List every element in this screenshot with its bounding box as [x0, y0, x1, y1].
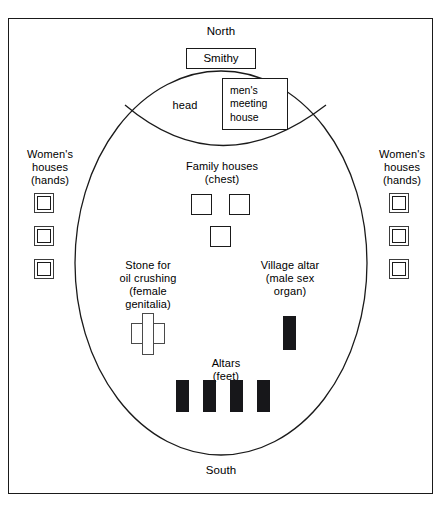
oil-crushing-stone-label: Stone for oil crushing (female genitalia… — [99, 259, 197, 311]
stone-wing-right-icon — [153, 323, 165, 344]
altar-glyph — [230, 380, 243, 412]
village-altar-label: Village altar (male sex organ) — [238, 259, 342, 298]
women-houses-left-label: Women's houses (hands) — [10, 148, 90, 187]
village-plan-diagram: North South Smithy head men's meeting ho… — [0, 0, 442, 508]
plan-frame-border — [8, 18, 433, 494]
altar-glyph — [257, 380, 270, 412]
women-house-glyph — [34, 193, 54, 213]
women-houses-right-label: Women's houses (hands) — [362, 148, 442, 187]
women-house-glyph — [389, 226, 409, 246]
oil-crushing-stone-glyph — [131, 313, 165, 355]
women-house-glyph — [34, 226, 54, 246]
family-house-glyph — [210, 226, 231, 247]
family-houses-label: Family houses (chest) — [162, 160, 282, 186]
stone-center-icon — [142, 313, 154, 355]
family-house-glyph — [191, 194, 212, 215]
south-label: South — [161, 464, 281, 478]
north-label: North — [161, 25, 281, 39]
smithy-structure: Smithy — [186, 48, 256, 69]
women-house-glyph — [34, 259, 54, 279]
altar-glyph — [203, 380, 216, 412]
women-house-glyph — [389, 259, 409, 279]
altar-glyph — [176, 380, 189, 412]
women-house-glyph — [389, 193, 409, 213]
mens-meeting-house-structure: men's meeting house — [222, 78, 288, 130]
head-region-label: head — [158, 99, 212, 112]
family-house-glyph — [229, 194, 250, 215]
village-altar-glyph — [283, 316, 296, 350]
